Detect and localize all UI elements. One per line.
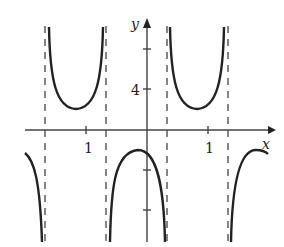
y-tick-label-4: 4 <box>131 82 140 98</box>
y-axis-label: y <box>130 16 140 32</box>
asymptotes <box>45 26 228 242</box>
x-axis-label: x <box>262 136 270 152</box>
function-graph: 1 1 4 y x <box>0 0 284 247</box>
x-tick-label-2: 1 <box>205 140 214 156</box>
x-tick-label-1: 1 <box>84 140 93 156</box>
x-arrow-icon <box>268 126 276 134</box>
y-arrow-icon <box>143 18 151 28</box>
